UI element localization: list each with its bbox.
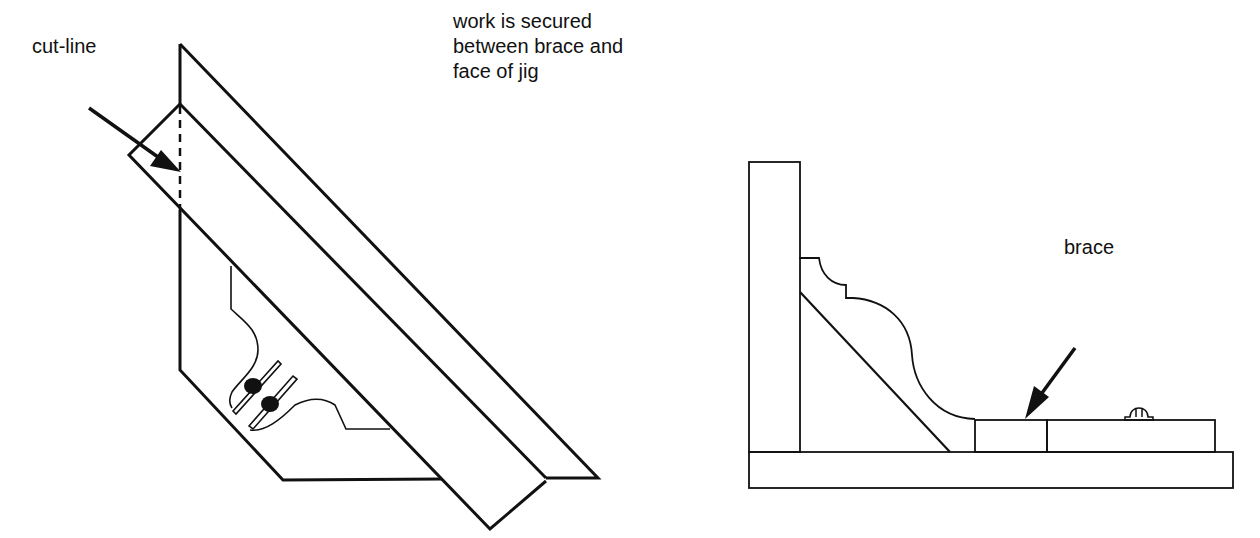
workpiece-outline bbox=[129, 104, 546, 529]
clamp-knob-2 bbox=[261, 396, 279, 412]
base-board bbox=[749, 452, 1233, 488]
clamp-knob-1 bbox=[244, 378, 262, 394]
right-jig-view bbox=[749, 162, 1233, 488]
workpiece-back bbox=[800, 292, 950, 452]
left-jig-view bbox=[129, 44, 598, 529]
crown-molding-profile bbox=[799, 258, 975, 419]
jig-diagram: cut-line work is secured between brace a… bbox=[0, 0, 1260, 538]
screw-icon bbox=[1125, 408, 1153, 420]
upright-board bbox=[749, 162, 800, 452]
securing-note: work is secured between brace and face o… bbox=[453, 9, 623, 84]
stop-block bbox=[1047, 420, 1215, 452]
fence-outer-edge bbox=[180, 44, 598, 478]
cut-line-label: cut-line bbox=[32, 34, 96, 58]
brace-label: brace bbox=[1064, 235, 1114, 259]
brace-arrow-icon bbox=[1025, 348, 1075, 419]
brace-block bbox=[975, 420, 1047, 452]
fence-inner-edge bbox=[180, 104, 546, 478]
